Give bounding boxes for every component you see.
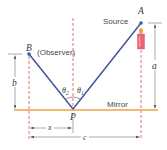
- dim-x-label: x: [47, 123, 52, 132]
- theta1-label: θ1: [77, 86, 84, 96]
- source-label: Source: [103, 17, 129, 26]
- observer-label: (Observer): [37, 48, 76, 57]
- reflection-diagram: Source A B (Observer) P Mirror θ2 θ1 a b…: [0, 0, 167, 150]
- point-a-label: A: [137, 6, 144, 16]
- point-p-label: P: [69, 112, 76, 122]
- dim-c-label: c: [83, 133, 87, 142]
- diagram-canvas: Source A B (Observer) P Mirror θ2 θ1 a b…: [0, 0, 167, 150]
- dim-b-label: b: [12, 78, 17, 88]
- mirror-label: Mirror: [107, 100, 128, 109]
- incident-ray: [73, 23, 141, 109]
- theta2-label: θ2: [62, 86, 69, 96]
- point-b-label: B: [26, 43, 32, 53]
- point-a: [139, 21, 143, 25]
- dim-a-label: a: [152, 61, 157, 71]
- reflected-ray: [29, 54, 73, 109]
- candle-icon: [138, 28, 145, 49]
